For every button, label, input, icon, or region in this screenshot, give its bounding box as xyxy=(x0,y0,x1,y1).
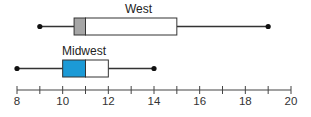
box-plot-chart: WestMidwest 8101214161820 xyxy=(0,0,311,117)
box-plots: WestMidwest xyxy=(14,2,270,77)
box-plot-midwest: Midwest xyxy=(14,44,156,77)
tick-label: 14 xyxy=(148,95,161,107)
min-point xyxy=(14,66,19,71)
tick-label: 18 xyxy=(239,95,252,107)
series-label: West xyxy=(125,2,153,16)
tick-label: 16 xyxy=(193,95,206,107)
tick-label: 12 xyxy=(102,95,115,107)
lower-box xyxy=(74,18,85,35)
max-point xyxy=(266,24,271,29)
tick-label: 10 xyxy=(56,95,69,107)
max-point xyxy=(151,66,156,71)
tick-label: 8 xyxy=(14,95,20,107)
box-plot-west: West xyxy=(37,2,271,35)
series-label: Midwest xyxy=(62,44,107,58)
x-axis: 8101214161820 xyxy=(14,86,298,107)
tick-label: 20 xyxy=(285,95,298,107)
upper-box xyxy=(86,18,177,35)
lower-box xyxy=(63,60,86,77)
upper-box xyxy=(86,60,109,77)
min-point xyxy=(37,24,42,29)
